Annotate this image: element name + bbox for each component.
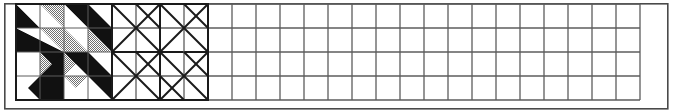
quilt-design-canvas: [0, 0, 673, 112]
pinwheel-block-filled[interactable]: [16, 4, 112, 100]
pinwheel-block-outline[interactable]: [112, 4, 208, 100]
quilt-design-diagram: [0, 0, 673, 112]
